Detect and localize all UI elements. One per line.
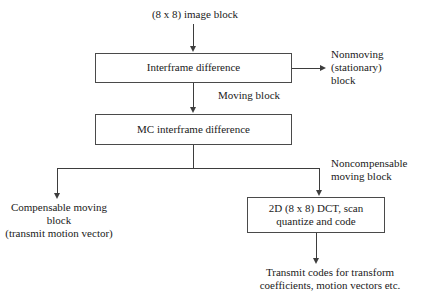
connector-dct-to-transmit: [316, 233, 317, 259]
box-dct-line2: quantize and code: [248, 215, 384, 228]
arrowhead-interframe-to-nonmoving: [320, 65, 326, 71]
arrowhead-split-left: [54, 193, 60, 199]
label-compensable-line1: Compensable moving: [0, 201, 118, 214]
arrowhead-interframe-to-mc: [190, 107, 196, 113]
box-dct-quantize-code: 2D (8 x 8) DCT, scan quantize and code: [247, 197, 385, 233]
arrowhead-dct-to-transmit: [313, 258, 319, 264]
arrowhead-input-to-interframe: [190, 46, 196, 52]
connector-mc-to-junction: [193, 145, 194, 169]
box-dct-line1: 2D (8 x 8) DCT, scan: [248, 202, 384, 215]
label-transmit-line1: Transmit codes for transform: [240, 266, 420, 279]
label-compensable-line2: block: [0, 214, 118, 227]
box-dct-text-wrapper: 2D (8 x 8) DCT, scan quantize and code: [248, 202, 384, 229]
connector-split-right: [319, 168, 320, 192]
connector-split-bar: [57, 168, 320, 169]
label-transmit-line2: coefficients, motion vectors etc.: [240, 279, 420, 292]
diagram-canvas: (8 x 8) image block Interframe differenc…: [0, 0, 423, 297]
label-noncompensable-line1: Noncompensable: [331, 157, 423, 170]
label-compensable-line3: (transmit motion vector): [0, 227, 118, 240]
label-moving-block: Moving block: [218, 89, 318, 102]
connector-interframe-to-nonmoving: [292, 68, 321, 69]
box-interframe-difference-label: Interframe difference: [96, 61, 291, 74]
box-mc-interframe-difference: MC interframe difference: [95, 114, 292, 145]
connector-input-to-interframe: [193, 24, 194, 47]
label-nonmoving-line1: Nonmoving: [331, 48, 423, 61]
label-nonmoving-line3: block: [331, 74, 423, 87]
connector-interframe-to-mc: [193, 83, 194, 108]
label-nonmoving-line2: (stationary): [331, 61, 423, 74]
label-noncompensable-line2: moving block: [331, 170, 423, 183]
input-label: (8 x 8) image block: [115, 8, 275, 21]
box-interframe-difference: Interframe difference: [95, 53, 292, 83]
box-mc-interframe-difference-label: MC interframe difference: [96, 123, 291, 136]
arrowhead-split-right: [316, 190, 322, 196]
connector-split-left: [57, 168, 58, 194]
